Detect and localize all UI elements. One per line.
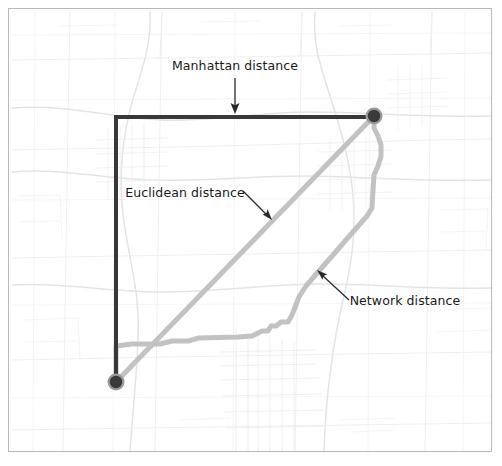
euclidean-distance-label: Euclidean distance bbox=[125, 185, 245, 200]
destination-node-dot bbox=[368, 110, 380, 122]
destination-node bbox=[366, 108, 383, 125]
distance-measures-figure: Manhattan distance Euclidean distance Ne… bbox=[0, 0, 502, 466]
origin-node-dot bbox=[110, 376, 122, 388]
manhattan-distance-label: Manhattan distance bbox=[172, 58, 298, 73]
network-distance-label: Network distance bbox=[350, 293, 461, 308]
map-canvas: Manhattan distance Euclidean distance Ne… bbox=[0, 0, 502, 466]
origin-node bbox=[108, 374, 125, 391]
